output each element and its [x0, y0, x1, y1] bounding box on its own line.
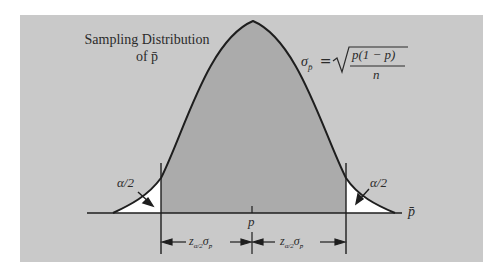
sigma-symbol: σ [301, 54, 308, 69]
right-tail-label: α/2 [370, 175, 387, 191]
sigma-subscript: p̄ [209, 242, 213, 250]
sampling-distribution-diagram: Sampling Distribution of p̄ σp̄ = p(1 − … [0, 0, 500, 275]
equals-sign: = [320, 53, 332, 69]
left-margin-label: zα/2σp̄ [189, 234, 212, 250]
standard-error-formula: σp̄ = [301, 53, 332, 72]
sigma-subscript: p̄ [300, 242, 304, 250]
formula-denominator: n [373, 67, 380, 83]
axis-label: p̄ [408, 204, 415, 220]
title-line-1: Sampling Distribution [62, 31, 232, 48]
title-line-2: of p̄ [62, 48, 232, 65]
formula-numerator: p(1 − p) [352, 47, 395, 63]
sigma-subscript: p̄ [308, 62, 313, 72]
diagram-title: Sampling Distribution of p̄ [62, 31, 232, 65]
center-label: p [248, 214, 255, 230]
z-subscript: α/2 [285, 242, 294, 250]
z-subscript: α/2 [194, 242, 203, 250]
left-tail-label: α/2 [117, 175, 134, 191]
right-margin-label: zα/2σp̄ [280, 234, 303, 250]
